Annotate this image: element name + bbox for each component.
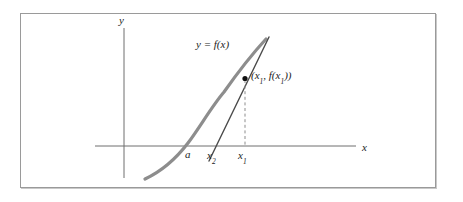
- tick-label-x2: x2: [207, 150, 216, 161]
- tangent-point-label: (x1, f(x1)): [251, 70, 291, 81]
- tick-label-a: a: [185, 149, 191, 160]
- tick-x2-sub: 2: [212, 157, 216, 166]
- point-label-inner-sub: 1: [280, 77, 284, 86]
- point-label-x: x: [255, 69, 260, 81]
- point-label-close-parens: )): [284, 69, 291, 81]
- function-curve-label: y = f(x): [196, 39, 229, 50]
- figure-root: y x y = f(x) (x1, f(x1)) a x2 x1: [0, 0, 463, 202]
- x-axis-label: x: [362, 142, 367, 153]
- point-label-sub-1: 1: [260, 77, 264, 86]
- tick-x1-sub: 1: [243, 157, 247, 166]
- y-axis-label: y: [119, 15, 124, 26]
- tick-label-x1: x1: [238, 150, 247, 161]
